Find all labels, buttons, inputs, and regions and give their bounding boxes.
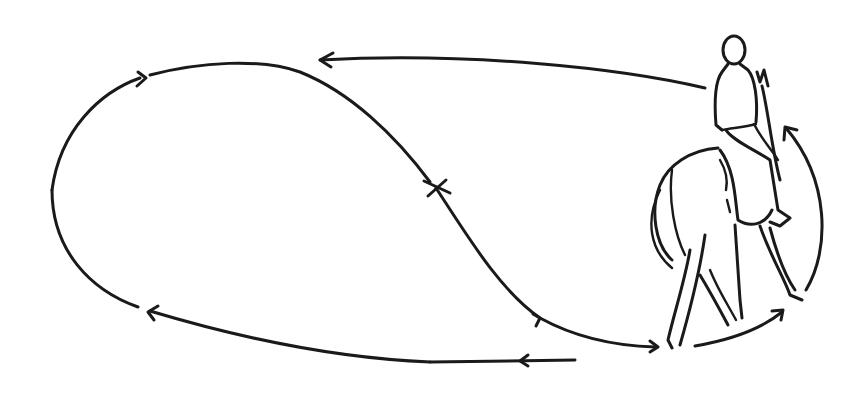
left-loop-upper	[52, 63, 430, 190]
right-arc-arrow	[784, 127, 822, 290]
left-loop-lower	[52, 190, 138, 307]
diagonal-path	[436, 188, 658, 352]
top-arrow	[320, 53, 705, 88]
riding-figure-drawing	[0, 0, 861, 399]
under-horse-arrow	[695, 310, 783, 346]
rider-head	[723, 36, 745, 64]
diagram-canvas: Riding figure: horse and rider seen from…	[0, 0, 861, 399]
bottom-arrow	[148, 306, 575, 366]
